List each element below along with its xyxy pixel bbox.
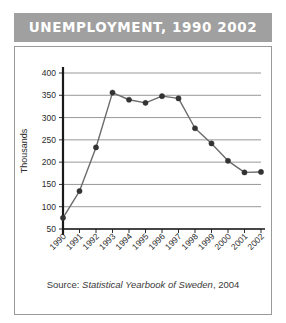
x-tick-label: 1997 — [163, 231, 184, 252]
y-tick-label: 150 — [42, 179, 56, 189]
data-point-marker — [225, 158, 230, 163]
chart-title-bar: UNEMPLOYMENT, 1990 2002 — [14, 13, 272, 42]
data-point-marker — [176, 96, 181, 101]
line-chart: 5010015020025030035040019901991199219931… — [15, 47, 271, 272]
chart-frame: 5010015020025030035040019901991199219931… — [14, 46, 272, 315]
y-tick-label: 250 — [42, 135, 56, 145]
x-tick-label: 1991 — [64, 231, 85, 252]
y-tick-label: 200 — [42, 157, 56, 167]
x-tick-label: 1990 — [47, 231, 68, 252]
unemployment-figure: UNEMPLOYMENT, 1990 2002 5010015020025030… — [0, 0, 286, 323]
x-tick-label: 1992 — [80, 231, 101, 252]
data-point-marker — [93, 145, 98, 150]
y-tick-label: 350 — [42, 90, 56, 100]
y-tick-label: 300 — [42, 113, 56, 123]
data-point-marker — [77, 189, 82, 194]
x-tick-label: 1999 — [196, 231, 217, 252]
data-point-marker — [258, 169, 263, 174]
series-line — [63, 93, 261, 218]
data-point-marker — [126, 97, 131, 102]
source-label: Source: — [47, 279, 82, 290]
data-point-marker — [209, 141, 214, 146]
x-tick-label: 2001 — [229, 231, 250, 252]
data-point-marker — [159, 94, 164, 99]
data-point-marker — [242, 170, 247, 175]
x-tick-label: 2000 — [212, 231, 233, 252]
x-tick-label: 1994 — [113, 231, 134, 252]
y-tick-label: 100 — [42, 202, 56, 212]
source-caption: Source: Statistical Yearbook of Sweden, … — [15, 279, 271, 290]
x-tick-label: 1996 — [146, 231, 167, 252]
source-publication: Statistical Yearbook of Sweden — [82, 279, 213, 290]
page-title: UNEMPLOYMENT, 1990 2002 — [29, 21, 257, 35]
y-axis-label: Thousands — [19, 128, 29, 173]
data-point-marker — [192, 126, 197, 131]
y-tick-label: 50 — [47, 224, 57, 234]
x-tick-label: 2002 — [245, 231, 266, 252]
data-point-marker — [143, 100, 148, 105]
data-point-marker — [60, 215, 65, 220]
y-tick-label: 400 — [42, 68, 56, 78]
plot-area: 5010015020025030035040019901991199219931… — [15, 47, 271, 272]
data-point-marker — [110, 90, 115, 95]
source-year: , 2004 — [213, 279, 239, 290]
x-tick-label: 1993 — [97, 231, 118, 252]
x-tick-label: 1995 — [130, 231, 151, 252]
x-tick-label: 1998 — [179, 231, 200, 252]
